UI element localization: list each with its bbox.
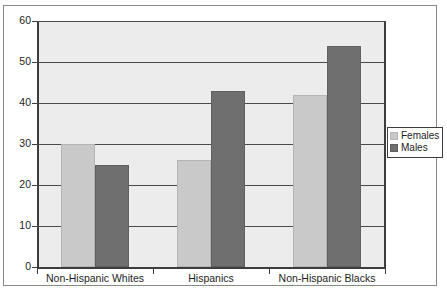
y-tick-label: 60 <box>1 15 31 26</box>
y-tick-mark <box>32 103 37 104</box>
bar-females-0 <box>61 144 95 267</box>
legend-item-females: Females <box>390 130 439 142</box>
y-tick-label: 50 <box>1 56 31 67</box>
y-tick-label: 30 <box>1 138 31 149</box>
legend-label-males: Males <box>401 143 428 153</box>
y-tick-mark <box>32 185 37 186</box>
bar-males-0 <box>95 165 129 268</box>
bars-layer <box>39 21 385 267</box>
bar-males-2 <box>327 46 361 267</box>
y-tick-label: 10 <box>1 220 31 231</box>
y-tick-mark <box>32 62 37 63</box>
chart-figure: 0102030405060 Non-Hispanic WhitesHispani… <box>0 0 447 292</box>
bar-males-1 <box>211 91 245 267</box>
chart-legend: Females Males <box>387 127 443 158</box>
y-tick-mark <box>32 144 37 145</box>
y-tick-label: 0 <box>1 261 31 272</box>
bar-females-2 <box>293 95 327 267</box>
legend-swatch-males-icon <box>390 144 398 152</box>
legend-swatch-females-icon <box>390 132 398 140</box>
y-tick-label-wrap: 60 <box>0 15 31 27</box>
y-tick-label-wrap: 50 <box>0 56 31 68</box>
y-tick-label-wrap: 40 <box>0 97 31 109</box>
y-tick-label-wrap: 10 <box>0 220 31 232</box>
y-tick-mark <box>32 267 37 268</box>
y-tick-label-wrap: 20 <box>0 179 31 191</box>
y-tick-mark <box>32 226 37 227</box>
legend-label-females: Females <box>401 131 439 141</box>
legend-item-males: Males <box>390 142 439 154</box>
y-tick-mark <box>32 21 37 22</box>
y-tick-label: 40 <box>1 97 31 108</box>
y-tick-label-wrap: 30 <box>0 138 31 150</box>
x-category-label: Non-Hispanic Blacks <box>247 272 407 284</box>
x-axis-line <box>37 267 386 269</box>
bar-females-1 <box>177 160 211 267</box>
y-tick-label: 20 <box>1 179 31 190</box>
